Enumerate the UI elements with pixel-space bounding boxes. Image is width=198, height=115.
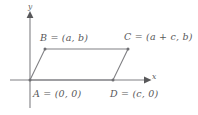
- vertex-dot-a: [29, 79, 32, 82]
- vertex-dot-d: [112, 79, 115, 82]
- vertex-label-a: A = (0, 0): [33, 89, 81, 99]
- y-axis-arrowhead: [27, 11, 34, 18]
- x-axis-arrowhead: [144, 77, 152, 84]
- vertex-label-b: B = (a, b): [40, 33, 88, 43]
- x-axis-label: x: [152, 73, 156, 81]
- vertex-dot-b: [44, 48, 47, 51]
- y-axis-label: y: [28, 3, 32, 11]
- parallelogram-shape: [30, 49, 128, 80]
- vertex-dot-c: [127, 48, 130, 51]
- diagram-canvas: [0, 0, 198, 115]
- parallelogram-coordinate-diagram: B = (a, b) C = (a + c, b) A = (0, 0) D =…: [0, 0, 198, 115]
- vertex-label-d: D = (c, 0): [110, 89, 158, 99]
- vertex-label-c: C = (a + c, b): [124, 32, 193, 42]
